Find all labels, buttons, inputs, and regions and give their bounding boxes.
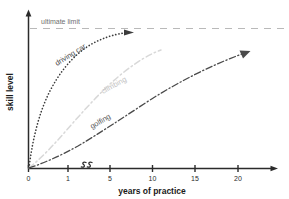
y-axis-title: skill level	[5, 73, 15, 111]
climbing-curve	[29, 50, 161, 168]
x-tick-label-5: 5	[108, 175, 112, 182]
axis-break-icon	[81, 162, 92, 167]
x-tick-label-10: 10	[149, 175, 157, 182]
x-tick-label-0: 0	[27, 175, 31, 182]
golfing-label: golfing	[89, 112, 113, 131]
skill-acquisition-chart: ultimate limit 0	[0, 0, 289, 199]
x-tick-label-15: 15	[191, 175, 199, 182]
x-tick-label-20: 20	[234, 175, 242, 182]
golfing-curve	[29, 54, 242, 168]
ultimate-limit-group: ultimate limit	[30, 18, 285, 29]
x-tick-label-group: 0 1 5 10 15 20	[27, 175, 242, 182]
y-axis-arrow-icon	[26, 10, 32, 17]
series-climbing: climbing	[29, 50, 161, 168]
series-golfing: golfing	[29, 51, 251, 169]
ultimate-limit-label: ultimate limit	[41, 18, 80, 25]
driving-car-label: driving car	[53, 41, 88, 67]
driving-car-arrow-icon	[124, 30, 134, 36]
x-tick-label-1: 1	[66, 175, 70, 182]
climbing-label: climbing	[100, 75, 128, 96]
series-driving-car: driving car	[29, 30, 134, 169]
axis-group	[26, 10, 278, 172]
x-axis-arrow-icon	[271, 166, 279, 172]
x-axis-title: years of practice	[118, 186, 186, 196]
chart-canvas: ultimate limit 0	[0, 0, 289, 199]
